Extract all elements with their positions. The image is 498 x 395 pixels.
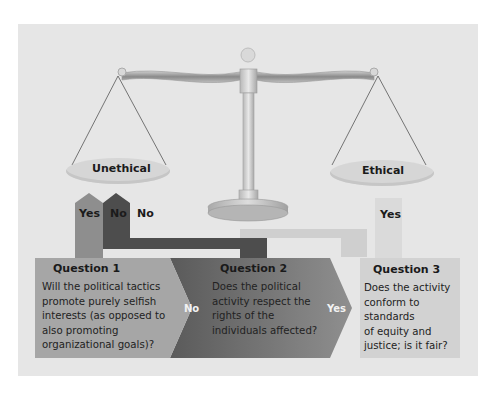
question-1-text: Will the political tactics promote purel… [42, 280, 165, 353]
question-1-title: Question 1 [53, 262, 120, 275]
question-2-text: Does the political activity respect the … [212, 280, 317, 338]
question-3-text: Does the activity conform to standards o… [364, 281, 450, 354]
question-1-no-label: No [184, 303, 199, 314]
question-2-yes-label: Yes [327, 303, 346, 314]
question-2-title: Question 2 [220, 262, 287, 275]
question-3-title: Question 3 [373, 263, 440, 276]
